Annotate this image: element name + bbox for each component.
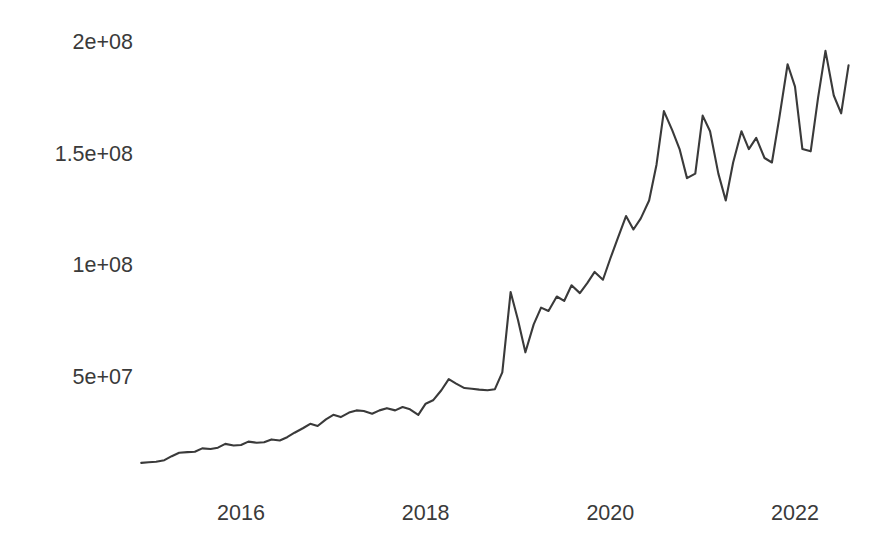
x-tick-label-2: 2020 <box>586 503 634 525</box>
x-axis-tick-labels: 2016201820202022 <box>0 0 870 551</box>
chart-figure: 2e+081.5e+081e+085e+07 2016201820202022 <box>0 0 870 551</box>
x-tick-label-1: 2018 <box>402 503 450 525</box>
x-tick-label-0: 2016 <box>217 503 265 525</box>
x-tick-label-3: 2022 <box>771 503 819 525</box>
